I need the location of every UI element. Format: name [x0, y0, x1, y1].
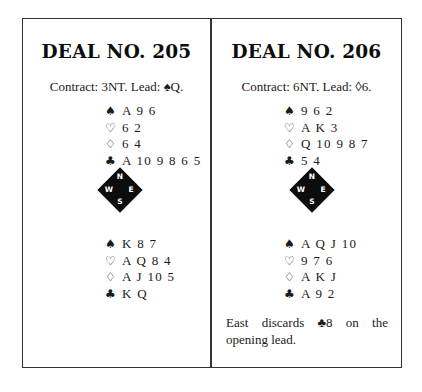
deal-note: East discards ♣8 on the opening lead.: [226, 314, 388, 348]
card-holding: A 9 6: [122, 103, 157, 118]
contract-lead: Contract: 6NT. Lead: ◊6.: [211, 79, 402, 95]
compass-south: S: [115, 197, 125, 206]
hand-row-clubs: ♣A 9 2: [284, 286, 357, 303]
note-word: on: [346, 314, 359, 331]
compass-east: E: [318, 185, 328, 194]
spade-icon: ♠: [284, 236, 301, 253]
hand-row-spades: ♠9 6 2: [284, 103, 369, 120]
note-word: the: [372, 314, 388, 331]
note-word: ♣8: [318, 314, 333, 331]
card-holding: A K J: [301, 269, 337, 284]
note-word: discards: [262, 314, 305, 331]
card-holding: K 8 7: [122, 236, 157, 251]
card-holding: 6 4: [122, 136, 142, 151]
compass-west: W: [104, 185, 114, 194]
north-hand: ♠A 9 6 ♡6 2 ♢6 4 ♣A 10 9 8 6 5: [105, 103, 202, 169]
club-icon: ♣: [284, 286, 301, 303]
card-holding: A 9 2: [301, 286, 336, 301]
heart-icon: ♡: [105, 253, 122, 270]
card-holding: K Q: [122, 286, 148, 301]
hand-row-diamonds: ♢Q 10 9 8 7: [284, 136, 369, 153]
hand-row-hearts: ♡A K 3: [284, 120, 369, 137]
diamond-icon: ♢: [284, 269, 301, 286]
spade-icon: ♠: [105, 236, 122, 253]
hand-row-hearts: ♡A Q 8 4: [105, 253, 175, 270]
south-hand: ♠K 8 7 ♡A Q 8 4 ♢A J 10 5 ♣K Q: [105, 236, 175, 302]
card-holding: 6 2: [122, 120, 142, 135]
card-holding: A Q J 10: [301, 236, 357, 251]
card-holding: A J 10 5: [122, 269, 175, 284]
hand-row-clubs: ♣K Q: [105, 286, 175, 303]
deal-title: DEAL NO. 206: [211, 41, 402, 62]
hand-row-diamonds: ♢A J 10 5: [105, 269, 175, 286]
card-holding: A 10 9 8 6 5: [122, 153, 202, 168]
north-hand: ♠9 6 2 ♡A K 3 ♢Q 10 9 8 7 ♣5 4: [284, 103, 369, 169]
card-holding: 9 6 2: [301, 103, 334, 118]
hand-row-diamonds: ♢6 4: [105, 136, 202, 153]
diamond-icon: ♢: [284, 136, 301, 153]
hand-row-spades: ♠A 9 6: [105, 103, 202, 120]
compass-north: N: [115, 172, 125, 181]
heart-icon: ♡: [105, 120, 122, 137]
compass-icon: N W E S: [290, 168, 334, 212]
note-line-2: opening lead.: [226, 331, 388, 348]
hand-row-diamonds: ♢A K J: [284, 269, 357, 286]
card-holding: A Q 8 4: [122, 253, 172, 268]
hand-row-spades: ♠K 8 7: [105, 236, 175, 253]
contract-lead: Contract: 3NT. Lead: ♠Q.: [22, 79, 211, 95]
compass-icon: N W E S: [98, 168, 142, 212]
card-holding: 9 7 6: [301, 253, 334, 268]
card-holding: A K 3: [301, 120, 339, 135]
diamond-icon: ♢: [105, 269, 122, 286]
card-holding: 5 4: [301, 153, 321, 168]
south-hand: ♠A Q J 10 ♡9 7 6 ♢A K J ♣A 9 2: [284, 236, 357, 302]
hand-row-clubs: ♣5 4: [284, 153, 369, 170]
hand-row-spades: ♠A Q J 10: [284, 236, 357, 253]
club-icon: ♣: [105, 286, 122, 303]
heart-icon: ♡: [284, 120, 301, 137]
deal-205-panel: DEAL NO. 205 Contract: 3NT. Lead: ♠Q. ♠A…: [22, 18, 211, 368]
compass-north: N: [307, 172, 317, 181]
compass-west: W: [296, 185, 306, 194]
diamond-icon: ♢: [105, 136, 122, 153]
hand-row-hearts: ♡6 2: [105, 120, 202, 137]
card-holding: Q 10 9 8 7: [301, 136, 369, 151]
note-word: East: [226, 314, 248, 331]
hand-row-hearts: ♡9 7 6: [284, 253, 357, 270]
compass-east: E: [126, 185, 136, 194]
spade-icon: ♠: [284, 103, 301, 120]
deal-title: DEAL NO. 205: [22, 41, 211, 62]
spade-icon: ♠: [105, 103, 122, 120]
compass-south: S: [307, 197, 317, 206]
note-line-1: East discards ♣8 on the: [226, 314, 388, 331]
heart-icon: ♡: [284, 253, 301, 270]
deal-206-panel: DEAL NO. 206 Contract: 6NT. Lead: ◊6. ♠9…: [211, 18, 402, 368]
club-icon: ♣: [284, 153, 301, 170]
